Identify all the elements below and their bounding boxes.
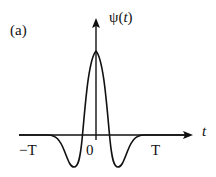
tick-label-pos-T: T	[151, 143, 160, 158]
y-axis-label: ψ(t)	[109, 10, 133, 25]
panel-label: (a)	[10, 23, 27, 38]
y-axis-label-paren-close: )	[128, 9, 133, 25]
y-axis-label-psi: ψ	[109, 9, 118, 25]
tick-label-neg-T: −T	[19, 143, 37, 158]
x-axis-label: t	[202, 124, 206, 139]
tick-label-zero: 0	[86, 143, 94, 158]
wavelet-curve	[19, 51, 186, 167]
